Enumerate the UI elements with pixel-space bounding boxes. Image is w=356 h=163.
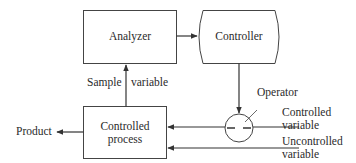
operator-label: Operator: [257, 86, 298, 99]
sample-variable-label: variable: [131, 76, 168, 89]
sample-label: Sample: [87, 76, 122, 89]
controlled-variable-label-2: variable: [282, 119, 319, 132]
controller-label: Controller: [198, 30, 280, 43]
uncontrolled-variable-label-1: Uncontrolled: [282, 135, 343, 148]
process-label-line1: Controlled: [83, 120, 167, 133]
controlled-variable-label-1: Controlled: [282, 106, 331, 119]
process-label-line2: process: [83, 133, 167, 146]
analyzer-label: Analyzer: [83, 30, 177, 43]
product-label: Product: [16, 125, 52, 138]
uncontrolled-variable-label-2: variable: [282, 148, 319, 161]
